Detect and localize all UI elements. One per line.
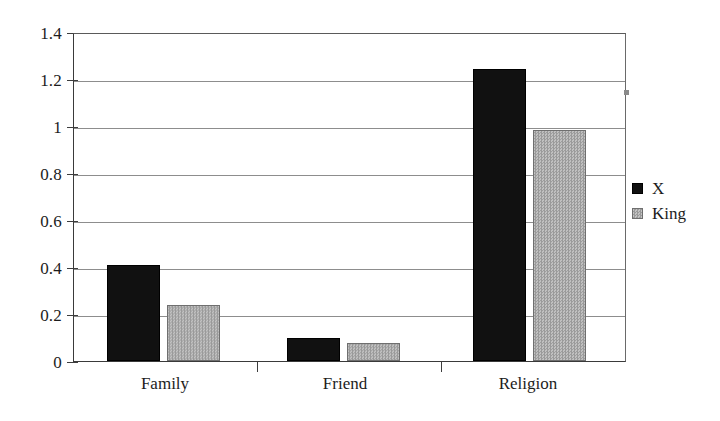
- x-axis-label-religion: Religion: [468, 374, 588, 394]
- bar-religion-king: [533, 130, 586, 361]
- bar-family-king: [167, 305, 220, 361]
- y-tick-label-0.4: 0.4: [40, 260, 62, 277]
- legend-label-x: X: [652, 180, 664, 197]
- legend-item-x: X: [632, 176, 718, 201]
- y-tick-mark-0: [67, 362, 78, 363]
- y-tick-label-1.4: 1.4: [40, 25, 62, 42]
- bar-friend-king: [347, 343, 400, 361]
- legend-label-king: King: [652, 205, 686, 222]
- y-tick-label-1.2: 1.2: [40, 72, 62, 89]
- bar-religion-x: [473, 69, 526, 361]
- legend: X King: [632, 176, 718, 226]
- bar-friend-x: [287, 338, 340, 361]
- y-tick-label-0.8: 0.8: [40, 166, 62, 183]
- bar-chart-figure: 1.4 1.2 1 0.8 0.6 0.4 0.2 0 F: [0, 0, 720, 421]
- legend-swatch-icon-king: [632, 208, 643, 219]
- x-axis-separator-tick-2: [441, 362, 442, 372]
- gridline-1.2: [74, 81, 625, 82]
- y-tick-label-1: 1: [53, 119, 62, 136]
- bar-family-x: [107, 265, 160, 361]
- x-axis-label-friend: Friend: [285, 374, 405, 394]
- plot-area: [73, 33, 626, 362]
- legend-swatch-icon-x: [632, 183, 643, 194]
- axis-stray-tick: [624, 90, 629, 95]
- y-axis: 1.4 1.2 1 0.8 0.6 0.4 0.2 0: [0, 0, 62, 421]
- y-tick-label-0.2: 0.2: [40, 307, 62, 324]
- x-axis-separator-tick-1: [257, 362, 258, 372]
- y-tick-label-0.6: 0.6: [40, 213, 62, 230]
- legend-item-king: King: [632, 201, 718, 226]
- y-tick-label-0: 0: [53, 354, 62, 371]
- x-axis-label-family: Family: [105, 374, 225, 394]
